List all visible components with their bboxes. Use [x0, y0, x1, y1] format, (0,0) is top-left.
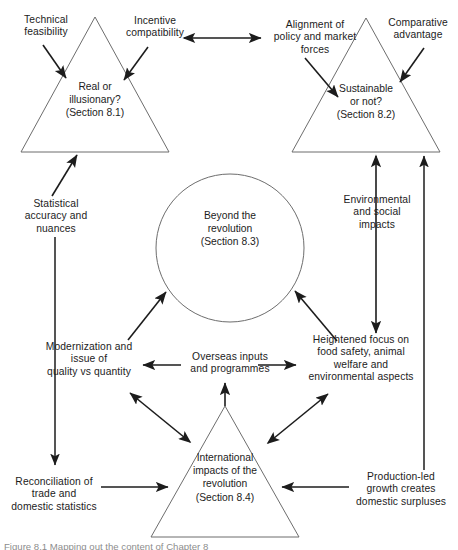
label-statistical-accuracy: Statistical accuracy and nuances — [10, 198, 102, 235]
label-environmental-social: Environmental and social impacts — [332, 194, 422, 231]
label-modernization-quality: Modernization and issue of quality vs qu… — [30, 341, 148, 378]
arrow-incentive-compatibility — [124, 47, 148, 80]
arrow-comparative-advantage — [400, 48, 424, 82]
label-overseas-inputs: Overseas inputs and programmes — [182, 351, 278, 376]
triangle-bottom-label: International impacts of the revolution … — [170, 451, 280, 504]
label-alignment-policy-market: Alignment of policy and market forces — [263, 19, 367, 56]
label-heightened-focus: Heightened focus on food safety, animal … — [298, 334, 424, 384]
arrow-heightened-triangle-double — [268, 394, 328, 443]
figure-diagram: Real or illusionary? (Section 8.1) Susta… — [0, 0, 458, 550]
label-reconciliation-trade: Reconciliation of trade and domestic sta… — [4, 476, 104, 513]
triangle-top-right-label: Sustainable or not? (Section 8.2) — [316, 82, 416, 122]
figure-caption: Figure 8.1 Mapping out the content of Ch… — [4, 541, 454, 550]
label-production-led-growth: Production-led growth creates domestic s… — [345, 471, 457, 508]
circle-center-label: Beyond the revolution (Section 8.3) — [180, 209, 280, 249]
label-incentive-compatibility: Incentive compatibility — [109, 15, 201, 40]
triangle-top-left-label: Real or illusionary? (Section 8.1) — [45, 80, 145, 120]
arrow-modernization-triangle-double — [130, 393, 190, 442]
arrow-statistical-accuracy-to-triangle — [52, 155, 77, 196]
arrow-technical-feasibility — [43, 45, 66, 78]
label-comparative-advantage: Comparative advantage — [378, 17, 458, 42]
label-technical-feasibility: Technical feasibility — [3, 14, 89, 39]
arrow-modernization-to-circle — [128, 292, 166, 340]
